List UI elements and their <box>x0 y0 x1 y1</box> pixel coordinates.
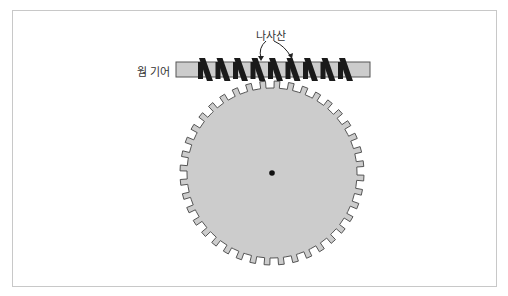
thread-back <box>216 62 221 79</box>
worm-gear-diagram <box>0 0 508 296</box>
thread-back <box>268 62 273 79</box>
thread-back <box>321 62 326 79</box>
thread-back <box>251 62 256 79</box>
thread-back <box>286 62 291 79</box>
thread-back <box>198 62 203 79</box>
thread-label: 나사산 <box>256 27 286 43</box>
thread-back <box>338 62 343 79</box>
wheel-axle-dot <box>269 170 275 176</box>
worm-threads <box>198 58 353 81</box>
arrow-right <box>274 41 291 57</box>
thread-back <box>233 62 238 79</box>
worm-wheel <box>180 81 364 265</box>
worm-gear-label: 웜 기어 <box>137 63 171 79</box>
arrowhead-left-icon <box>258 56 264 61</box>
arrow-left <box>260 41 266 58</box>
thread-back <box>303 62 308 79</box>
worm-screw <box>176 58 370 81</box>
